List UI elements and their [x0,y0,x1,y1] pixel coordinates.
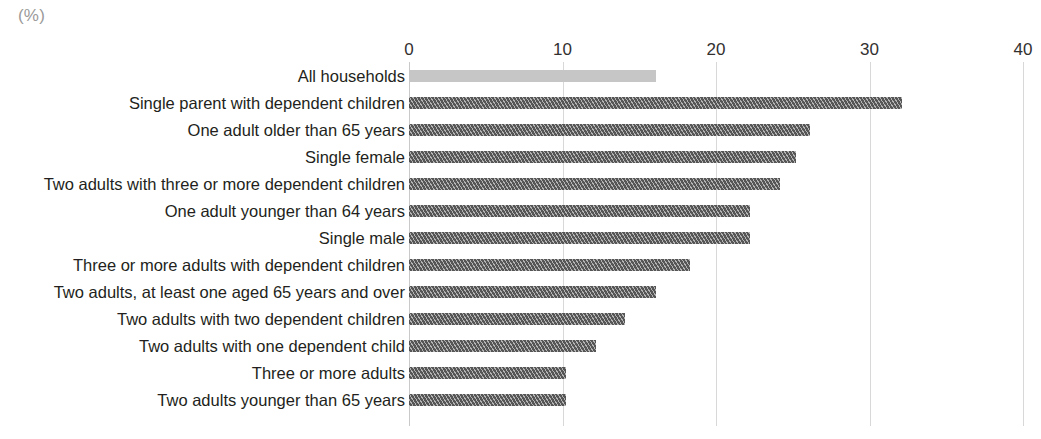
chart-row: Three or more adults with dependent chil… [0,251,1041,278]
chart-row: Two adults with one dependent child [0,332,1041,359]
chart-row: Two adults with three or more dependent … [0,170,1041,197]
unit-label: (%) [18,6,45,26]
bar [409,286,656,298]
chart-row: Three or more adults [0,359,1041,386]
category-label: Single female [305,148,405,165]
category-label: Two adults with one dependent child [139,337,405,354]
bar [409,151,796,163]
chart-row: One adult younger than 64 years [0,197,1041,224]
x-tick-label-0: 0 [404,40,413,60]
category-label: Single parent with dependent children [129,94,405,111]
category-label: Three or more adults [252,364,405,381]
bar [409,70,656,82]
chart-row: Two adults, at least one aged 65 years a… [0,278,1041,305]
chart-row: All households [0,62,1041,89]
chart-row: One adult older than 65 years [0,116,1041,143]
category-label: Three or more adults with dependent chil… [73,256,405,273]
x-tick-label-10: 10 [553,40,572,60]
bar [409,394,566,406]
bar [409,340,596,352]
x-axis-tick-labels: 010203040 [409,40,1023,62]
bar-chart: (%) 010203040 All householdsSingle paren… [0,0,1041,439]
category-label: Two adults, at least one aged 65 years a… [54,283,405,300]
chart-row: Single female [0,143,1041,170]
category-label: One adult younger than 64 years [165,202,405,219]
category-label: All households [298,67,405,84]
bar [409,232,750,244]
chart-row: Single parent with dependent children [0,89,1041,116]
bar [409,97,902,109]
bar [409,313,625,325]
bar [409,259,690,271]
category-label: Two adults younger than 65 years [157,391,405,408]
x-tick-label-30: 30 [860,40,879,60]
chart-row: Two adults younger than 65 years [0,386,1041,413]
category-label: Single male [319,229,405,246]
category-label: One adult older than 65 years [188,121,405,138]
category-label: Two adults with two dependent children [117,310,405,327]
chart-row: Single male [0,224,1041,251]
x-tick-label-20: 20 [707,40,726,60]
chart-row: Two adults with two dependent children [0,305,1041,332]
bar [409,178,780,190]
bar [409,367,566,379]
x-tick-label-40: 40 [1014,40,1033,60]
category-label: Two adults with three or more dependent … [44,175,405,192]
bar [409,205,750,217]
chart-rows: All householdsSingle parent with depende… [0,62,1041,413]
bar [409,124,810,136]
